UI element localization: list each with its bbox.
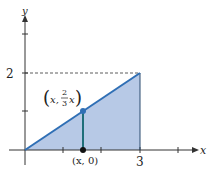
x-axis-arrow-icon (192, 147, 199, 153)
axis-point-label: (x, 0) (72, 155, 98, 166)
x-axis-label: x (200, 144, 207, 157)
x-tick-label-3: 3 (136, 155, 144, 169)
label-open-paren: ( (43, 87, 50, 108)
y-tick-label-2: 2 (6, 67, 14, 81)
label-x: x, (50, 94, 59, 105)
y-axis-label: y (21, 5, 28, 16)
label-close-paren: ) (75, 87, 82, 108)
label-fraction-den: 3 (62, 99, 67, 108)
curve-point (80, 108, 86, 114)
curve-point-label: ( x, 2 3 x ) (43, 87, 82, 108)
label-fraction-num: 2 (62, 88, 67, 97)
region-diagram: y x 2 3 (x, 0) ( x, 2 3 x ) (0, 0, 211, 172)
y-axis-arrow-icon (22, 15, 28, 22)
axis-point (80, 147, 86, 153)
